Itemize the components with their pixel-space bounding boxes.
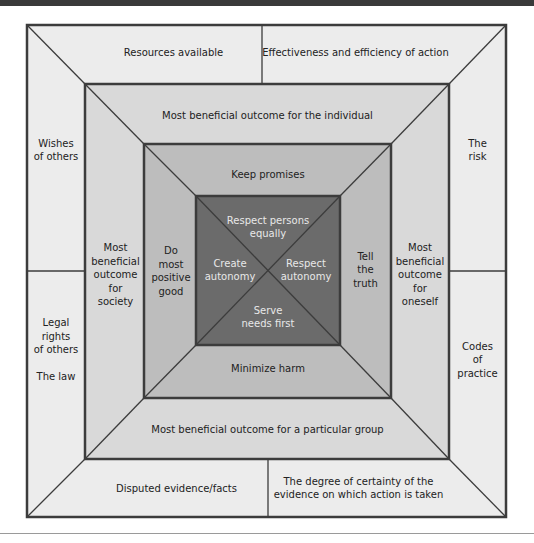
- label-degree-of-certainty: The degree of certainty of the evidence …: [268, 470, 449, 506]
- label-disputed-evidence: Disputed evidence/facts: [85, 474, 268, 504]
- label-create-autonomy: Create autonomy: [198, 255, 262, 285]
- label-codes-of-practice: Codes of practice: [449, 320, 506, 400]
- label-tell-the-truth: Tell the truth: [340, 245, 391, 295]
- label-legal-rights-the-law: Legal rights of others The law: [27, 300, 85, 400]
- label-outcome-particular-group: Most beneficial outcome for a particular…: [144, 418, 391, 442]
- label-resources-available: Resources available: [85, 38, 262, 68]
- label-respect-autonomy: Respect autonomy: [274, 255, 338, 285]
- label-effectiveness-efficiency: Effectiveness and efficiency of action: [262, 38, 449, 68]
- label-respect-persons-equally: Respect persons equally: [206, 212, 330, 242]
- nested-squares-diagram: [0, 0, 534, 543]
- label-outcome-oneself: Most beneficial outcome for oneself: [391, 230, 449, 320]
- label-do-most-positive-good: Do most positive good: [146, 236, 196, 306]
- label-minimize-harm: Minimize harm: [196, 358, 340, 380]
- label-outcome-society: Most beneficial outcome for society: [87, 230, 144, 320]
- label-keep-promises: Keep promises: [196, 164, 340, 186]
- bottom-rule: [0, 533, 534, 534]
- label-the-risk: The risk: [449, 120, 506, 180]
- label-outcome-individual: Most beneficial outcome for the individu…: [144, 104, 391, 128]
- label-serve-needs-first: Serve needs first: [206, 302, 330, 332]
- label-wishes-of-others: Wishes of others: [27, 120, 85, 180]
